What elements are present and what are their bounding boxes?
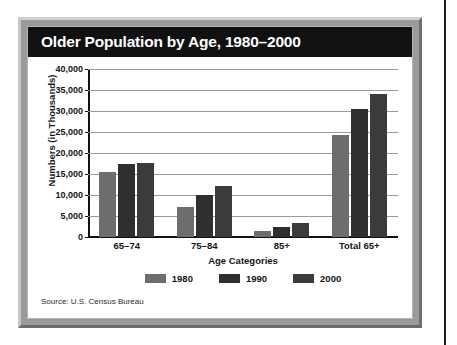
bar — [351, 109, 368, 237]
x-axis-category-label: Total 65+ — [339, 240, 380, 251]
legend-swatch — [219, 274, 240, 283]
legend-item: 1980 — [145, 273, 193, 284]
bars-layer — [88, 69, 398, 237]
bar — [370, 94, 387, 237]
legend-label: 1980 — [172, 273, 193, 284]
y-axis-tick-label: 40,000 — [31, 64, 83, 74]
y-axis-tick-label: 20,000 — [31, 148, 83, 158]
bar — [332, 135, 349, 237]
bar — [273, 227, 290, 237]
x-axis-category-label: 75–84 — [191, 240, 217, 251]
x-axis-title: Age Categories — [88, 255, 398, 266]
plot-wrapper: Numbers (in Thousands) 05,00010,00015,00… — [28, 57, 412, 318]
chart-title: Older Population by Age, 1980–2000 — [41, 33, 301, 51]
bar — [196, 195, 213, 237]
bar-group — [177, 69, 232, 237]
x-axis-category-label: 65–74 — [114, 240, 140, 251]
bar — [215, 186, 232, 237]
bar — [254, 231, 271, 237]
bar — [137, 163, 154, 237]
legend-label: 2000 — [320, 273, 341, 284]
y-axis-tick-label: 15,000 — [31, 169, 83, 179]
y-axis-tick-label: 0 — [31, 232, 83, 242]
figure-frame: Older Population by Age, 1980–2000 Numbe… — [18, 17, 422, 328]
bar-group — [332, 69, 387, 237]
legend-label: 1990 — [246, 273, 267, 284]
bar — [177, 207, 194, 237]
legend-swatch — [293, 274, 314, 283]
y-axis-tick-label: 5,000 — [31, 211, 83, 221]
bar — [99, 172, 116, 237]
bar-group — [254, 69, 309, 237]
y-axis-tick-label: 25,000 — [31, 127, 83, 137]
figure-panel: Older Population by Age, 1980–2000 Numbe… — [27, 26, 413, 319]
page-edge-rule — [444, 0, 446, 345]
y-axis-tick-label: 10,000 — [31, 190, 83, 200]
plot-area — [88, 69, 398, 237]
title-band: Older Population by Age, 1980–2000 — [28, 27, 412, 57]
bar — [118, 164, 135, 237]
x-axis-category-labels: 65–7475–8485+Total 65+ — [88, 240, 398, 254]
chart-legend: 198019902000 — [88, 273, 398, 284]
source-note: Source: U.S. Census Bureau — [41, 297, 144, 306]
bar — [292, 223, 309, 237]
legend-item: 1990 — [219, 273, 267, 284]
y-axis-tick-label: 30,000 — [31, 106, 83, 116]
y-axis-tick-label: 35,000 — [31, 85, 83, 95]
legend-item: 2000 — [293, 273, 341, 284]
y-axis-tick-labels: 05,00010,00015,00020,00025,00030,00035,0… — [28, 69, 83, 237]
bar-group — [99, 69, 154, 237]
x-axis-category-label: 85+ — [274, 240, 290, 251]
legend-swatch — [145, 274, 166, 283]
